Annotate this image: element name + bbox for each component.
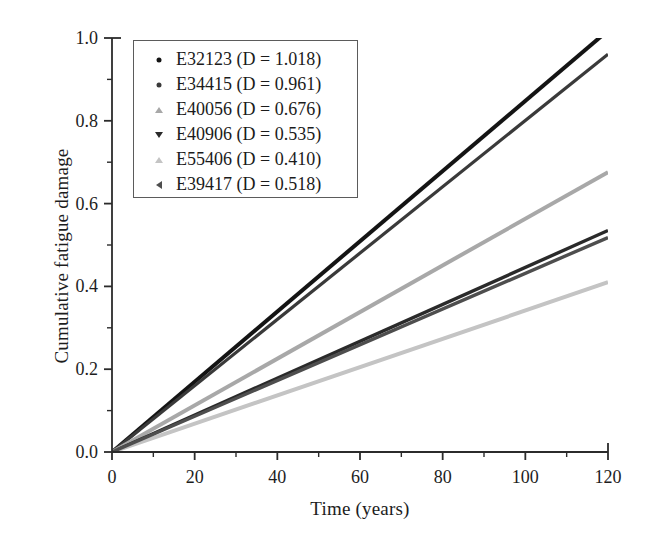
legend-item: E39417 (D = 0.518) bbox=[134, 172, 357, 197]
x-tick-label: 20 bbox=[165, 468, 225, 486]
series-line-e40056 bbox=[112, 172, 608, 452]
legend-marker-dot-icon bbox=[146, 78, 172, 92]
legend-marker-dot-icon bbox=[146, 53, 172, 67]
legend-item: E55406 (D = 0.410) bbox=[134, 147, 357, 172]
x-tick-label: 100 bbox=[495, 468, 555, 486]
legend-item: E40056 (D = 0.676) bbox=[134, 97, 357, 122]
chart-figure: 0.00.20.40.60.81.0 020406080100120 Cumul… bbox=[0, 0, 651, 539]
legend-label: E55406 (D = 0.410) bbox=[172, 150, 321, 169]
legend-marker-tri-left-icon bbox=[146, 178, 172, 192]
series-line-e39417 bbox=[112, 238, 608, 452]
y-tick-label: 1.0 bbox=[50, 29, 98, 47]
x-tick-label: 80 bbox=[413, 468, 473, 486]
x-tick-label: 120 bbox=[578, 468, 638, 486]
legend-item: E32123 (D = 1.018) bbox=[134, 47, 357, 72]
legend-label: E40056 (D = 0.676) bbox=[172, 100, 321, 119]
legend-label: E39417 (D = 0.518) bbox=[172, 175, 321, 194]
series-line-e55406 bbox=[112, 282, 608, 452]
y-axis-title: Cumulative fatigue damage bbox=[51, 76, 73, 436]
legend-marker-tri-up-icon bbox=[146, 153, 172, 167]
legend-marker-tri-down-icon bbox=[146, 128, 172, 142]
x-axis-title: Time (years) bbox=[112, 498, 608, 520]
x-tick-label: 0 bbox=[82, 468, 142, 486]
legend-label: E34415 (D = 0.961) bbox=[172, 75, 321, 94]
y-tick-label: 0.0 bbox=[50, 443, 98, 461]
x-tick-label: 60 bbox=[330, 468, 390, 486]
x-tick-label: 40 bbox=[247, 468, 307, 486]
chart-legend: E32123 (D = 1.018)E34415 (D = 0.961)E400… bbox=[133, 40, 358, 198]
legend-label: E32123 (D = 1.018) bbox=[172, 50, 321, 69]
legend-label: E40906 (D = 0.535) bbox=[172, 125, 321, 144]
legend-item: E34415 (D = 0.961) bbox=[134, 72, 357, 97]
legend-marker-tri-up-icon bbox=[146, 103, 172, 117]
legend-item: E40906 (D = 0.535) bbox=[134, 122, 357, 147]
